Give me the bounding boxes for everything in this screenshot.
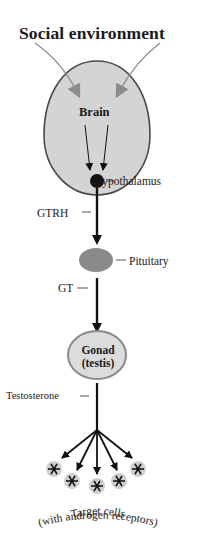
target-cell [64,473,80,489]
gonad-label: Gonad (testis) [75,344,121,369]
testosterone-label: Testosterone [6,391,59,402]
target-cell [111,473,127,489]
hypothalamus-label: Hypothalamus [94,176,161,188]
target-cell [46,461,62,477]
gtrh-label: GTRH [37,208,68,220]
pituitary-node [79,248,113,272]
gonad-label-line2: (testis) [75,357,121,370]
target-cells [46,461,146,494]
gt-label: GT [58,283,73,295]
target-cell [130,461,146,477]
target-cell [89,478,105,494]
target-cells-label-line2: (with androgen receptors) [37,508,160,529]
endocrine-pathway-diagram: Target cells (with androgen receptors) [0,0,215,550]
gonad-label-line1: Gonad [75,344,121,357]
diagram-title: Social environment [19,25,165,43]
brain-label: Brain [79,106,110,119]
pituitary-label: Pituitary [129,256,169,268]
target-cell-arrows [62,430,132,474]
